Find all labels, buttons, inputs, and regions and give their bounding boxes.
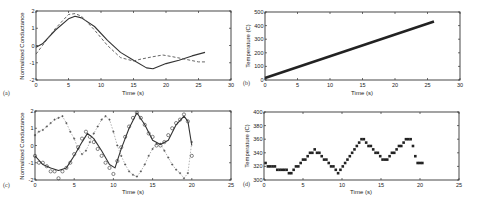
square-marker xyxy=(309,152,312,155)
plus-marker xyxy=(163,150,165,152)
y-tick-label: -2 xyxy=(29,177,34,183)
y-tick-label: 0 xyxy=(260,77,263,83)
y-tick-label: 300 xyxy=(253,177,262,183)
square-marker xyxy=(353,148,356,151)
x-tick-label: 15 xyxy=(378,182,384,188)
square-marker xyxy=(367,145,370,148)
square-marker xyxy=(302,158,305,161)
square-marker xyxy=(370,145,373,148)
square-marker xyxy=(332,165,335,168)
square-marker xyxy=(377,152,380,155)
square-marker xyxy=(407,138,410,141)
square-marker xyxy=(297,165,300,168)
square-marker xyxy=(384,158,387,161)
plus-marker xyxy=(42,129,44,131)
square-marker xyxy=(365,141,368,144)
plus-marker xyxy=(89,141,91,143)
y-tick-label: 320 xyxy=(253,163,262,169)
y-tick-label: 340 xyxy=(253,150,262,156)
square-marker xyxy=(334,169,337,172)
square-marker xyxy=(388,155,391,158)
y-tick-label: 1 xyxy=(31,25,34,31)
series-line-dashed xyxy=(36,14,205,62)
circle-marker xyxy=(167,134,170,137)
circle-marker xyxy=(171,127,174,130)
x-tick-label: 0 xyxy=(263,82,266,88)
plus-marker xyxy=(124,163,126,165)
y-tick-label: 2 xyxy=(31,8,34,14)
ylabel-a: Normalized Conductance xyxy=(19,12,25,80)
square-marker xyxy=(412,145,415,148)
square-marker xyxy=(360,138,363,141)
square-marker xyxy=(304,158,307,161)
square-marker xyxy=(278,169,281,172)
square-marker xyxy=(356,145,359,148)
x-tick-label: 10 xyxy=(110,182,116,188)
circle-marker xyxy=(84,130,87,133)
plus-marker xyxy=(93,132,95,134)
square-marker xyxy=(320,155,323,158)
square-marker xyxy=(325,158,328,161)
x-tick-label: 20 xyxy=(189,182,195,188)
circle-marker xyxy=(96,147,99,150)
square-marker xyxy=(398,145,401,148)
series-line-thick xyxy=(265,22,434,79)
panel-c: 0510152025-2-1012 Time (s) Normalized Co… xyxy=(3,108,234,195)
circle-marker xyxy=(190,154,193,157)
square-marker xyxy=(374,152,377,155)
panel-a: 051015202530-2-1012 Time (s) Normalized … xyxy=(3,8,234,97)
x-tick-label: 25 xyxy=(424,82,430,88)
square-marker xyxy=(292,169,295,172)
plus-marker xyxy=(65,122,67,124)
x-tick-label: 15 xyxy=(150,182,156,188)
square-marker xyxy=(306,155,309,158)
square-marker xyxy=(323,158,326,161)
xlabel-b: Time (s) xyxy=(351,90,373,96)
circle-marker xyxy=(108,166,111,169)
plus-marker xyxy=(57,117,59,119)
square-marker xyxy=(421,162,424,165)
square-marker xyxy=(402,141,405,144)
square-marker xyxy=(409,138,412,141)
xlabel-a: Time (s) xyxy=(122,90,144,96)
x-tick-label: 20 xyxy=(417,182,423,188)
x-tick-label: 5 xyxy=(296,82,299,88)
plus-marker xyxy=(73,138,75,140)
series-line-solid xyxy=(35,113,192,171)
square-marker xyxy=(358,141,361,144)
y-tick-label: 200 xyxy=(254,50,263,56)
ylabel-c: Normalized Conductance xyxy=(19,112,25,180)
square-marker xyxy=(400,145,403,148)
square-marker xyxy=(405,138,408,141)
panel-b: 0510152025300100200300400500 Time (s) Te… xyxy=(243,9,463,96)
x-tick-label: 25 xyxy=(195,82,201,88)
square-marker xyxy=(295,165,298,168)
ylabel-b: Temperature (C) xyxy=(245,24,251,68)
plus-marker xyxy=(69,131,71,133)
square-marker xyxy=(381,158,384,161)
circle-marker xyxy=(49,170,52,173)
plus-marker xyxy=(116,144,118,146)
square-marker xyxy=(414,155,417,158)
square-marker xyxy=(313,148,316,151)
square-marker xyxy=(274,165,277,168)
plus-marker xyxy=(112,131,114,133)
y-tick-label: 360 xyxy=(253,136,262,142)
square-marker xyxy=(269,165,272,168)
plus-marker xyxy=(144,163,146,165)
y-tick-label: 300 xyxy=(254,36,263,42)
circle-marker xyxy=(53,170,56,173)
y-tick-label: 400 xyxy=(254,23,263,29)
plus-marker xyxy=(167,156,169,158)
square-marker xyxy=(363,138,366,141)
x-tick-label: 15 xyxy=(359,82,365,88)
square-marker xyxy=(264,162,267,165)
circle-marker xyxy=(61,170,64,173)
square-marker xyxy=(311,152,314,155)
x-tick-label: 15 xyxy=(130,82,136,88)
x-tick-label: 20 xyxy=(163,82,169,88)
square-marker xyxy=(346,158,349,161)
x-tick-label: 10 xyxy=(98,82,104,88)
x-tick-label: 10 xyxy=(339,182,345,188)
square-marker xyxy=(288,172,291,175)
